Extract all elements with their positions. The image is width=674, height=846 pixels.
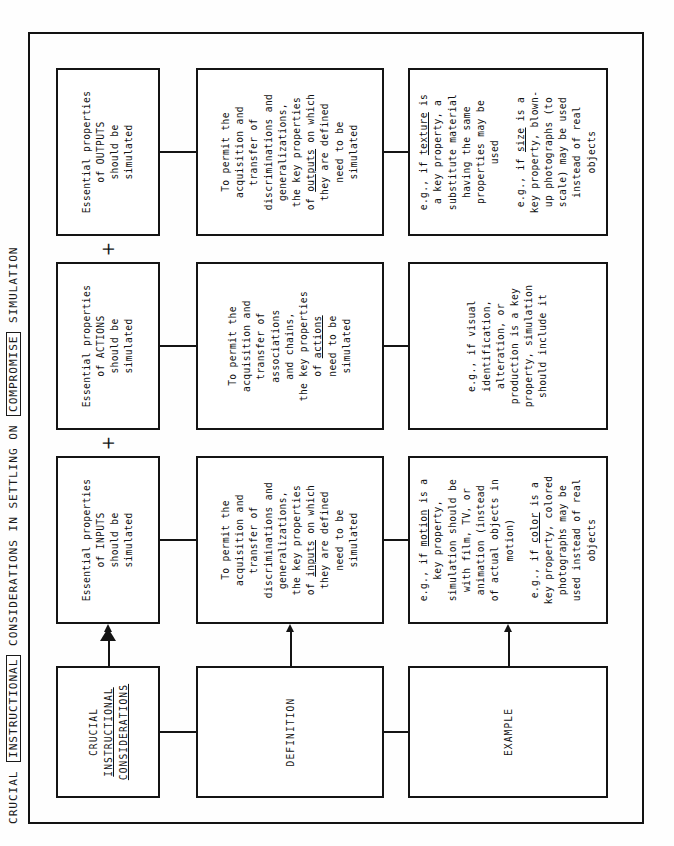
connector-inputs-definition-to-example [384,539,408,541]
definition-inputs-line1: acquisition and [234,494,245,586]
row-label-line3: CONSIDERATIONS [118,684,129,780]
definition-outputs-line7: they are defined [319,103,330,201]
definition-outputs-line1: acquisition and [234,106,245,198]
header-outputs-line4: simulated [123,124,134,179]
definition-outputs: To permit theacquisition andtransfer ofd… [219,94,361,210]
definition-outputs-line2: transfer of [248,118,259,185]
arrowhead-into-inputs-header [100,628,116,641]
example-outputs-0-line1: a key property, a [432,100,443,204]
header-actions-line1: Essential properties [81,285,92,408]
connector-inputs-header-to-definition [160,539,196,541]
example-box-inputs: e.g., if motion is akey property,simulat… [408,456,608,624]
row-label-definition-text: DEFINITION [285,698,296,767]
example-actions-0: e.g., if visualidentification,alteration… [465,285,550,408]
definition-outputs-keyword6: outputs [305,149,316,192]
definition-outputs-line3: discriminations and [263,94,274,210]
example-inputs-1-tail0: is a [529,482,540,513]
example-outputs-0-line3: having the same [461,106,472,198]
definition-actions-line2: transfer of [255,312,266,379]
definition-inputs-line4: generalizations, [277,491,288,589]
example-inputs-0: e.g., if motion is akey property,simulat… [417,479,516,602]
example-actions-0-line4: property, simulation [523,285,534,408]
definition-outputs-line6: of [305,192,316,210]
title-text-0: CRUCIAL [7,763,20,824]
example-outputs-1-line3: scale) may be used [557,97,568,207]
example-outputs-0-line0: e.g., if [418,155,429,210]
row-label-crucial-instructional-considerations: CRUCIAL INSTRUCTIONAL CONSIDERATIONS [56,666,160,798]
plus-operator-inputs-actions: + [100,430,117,456]
rotated-figure-canvas: CRUCIAL INSTRUCTIONAL CONSIDERATIONS IN … [0,0,674,846]
definition-inputs-keyword6: inputs [305,540,316,577]
definition-actions-line0: To permit the [227,306,238,386]
definition-box-inputs: To permit theacquisition andtransfer ofd… [196,456,384,624]
definition-inputs-line5: the key properties [291,485,302,595]
plus-glyph-1: + [98,436,118,450]
example-inputs-0-line4: animation (instead [475,485,486,595]
example-actions-0-line3: production is a key [509,288,520,404]
example-outputs-1-keyword0: size [515,128,526,153]
example-actions-0-line1: identification, [481,300,492,392]
row-label-example: EXAMPLE [408,666,608,798]
connector-rowlabel-to-inputs-example [504,624,513,666]
title-boxed-word-3: COMPROMISE [6,332,21,416]
definition-outputs-line0: To permit the [220,112,231,192]
definition-actions: To permit theacquisition andtransfer ofa… [226,291,354,401]
connector-outputs-header-to-definition [160,151,196,153]
example-inputs-0-line0: e.g., if [418,546,429,601]
header-box-outputs: Essential properties of OUTPUTS should b… [56,68,160,236]
definition-inputs-line9: simulated [348,512,359,567]
header-actions-line4: simulated [123,318,134,373]
plus-glyph-2: + [98,242,118,256]
definition-outputs-tail6: on which [305,94,316,149]
example-inputs-0-keyword0: motion [418,509,429,546]
example-inputs-1: e.g., if color is akey property, colored… [528,476,599,605]
plus-operator-actions-outputs: + [100,236,117,262]
example-inputs-1-line3: used instead of real [571,479,582,602]
example-outputs-1: e.g., if size is akey property, blown-up… [514,91,599,214]
definition-actions-line7: need to be [327,315,338,376]
example-inputs-1-keyword0: color [529,512,540,543]
header-outputs-line1: Essential properties [81,91,92,214]
header-outputs-line2: of OUTPUTS [95,121,106,182]
example-inputs-1-line4: objects [586,519,597,562]
example-inputs-0-line6: motion) [504,519,515,562]
example-outputs-1-line0: e.g., if [515,152,526,207]
example-box-actions: e.g., if visualidentification,alteration… [408,262,608,430]
definition-outputs-line5: the key properties [291,97,302,207]
definition-box-actions: To permit theacquisition andtransfer ofa… [196,262,384,430]
scanned-figure-page: CRUCIAL INSTRUCTIONAL CONSIDERATIONS IN … [0,0,674,846]
example-outputs-1-line4: instead of real [571,106,582,198]
connector-rowlabel-definition-to-example [384,731,408,733]
header-inputs-line2: of INPUTS [95,512,106,567]
example-outputs-0-keyword0: texture [418,112,429,155]
row-label-line2: INSTRUCTIONAL [103,687,114,776]
example-inputs-0-line3: with film, TV, or [461,488,472,592]
title-text-2: CONSIDERATIONS IN SETTLING ON [7,417,20,654]
definition-inputs-line2: transfer of [248,506,259,573]
example-box-outputs: e.g., if texture isa key property, asubs… [408,68,608,236]
example-actions-0-line5: should include it [537,294,548,398]
header-outputs-line3: should be [109,124,120,179]
row-label-example-text: EXAMPLE [503,708,514,756]
definition-inputs-line3: discriminations and [263,482,274,598]
figure-title: CRUCIAL INSTRUCTIONAL CONSIDERATIONS IN … [6,247,21,824]
definition-actions-line1: acquisition and [241,300,252,392]
definition-actions-line5: the key properties [298,291,309,401]
example-inputs-1-line0: e.g., if [529,543,540,598]
connector-rowlabel-header-to-definition [160,731,196,733]
header-inputs-line4: simulated [123,512,134,567]
example-outputs-1-line2: up photographs (to [543,97,554,207]
title-boxed-word-1: INSTRUCTIONAL [6,655,21,762]
definition-inputs-line0: To permit the [220,500,231,580]
definition-actions-line8: simulated [341,318,352,373]
example-inputs-0-tail0: is a [418,479,429,510]
example-outputs-0-tail0: is [418,94,429,112]
example-outputs-1-line1: key property, blown- [529,91,540,214]
header-actions-line3: should be [109,318,120,373]
definition-inputs-line6: of [305,577,316,595]
example-outputs-1-tail0: is a [515,97,526,128]
definition-inputs-line7: they are defined [319,491,330,589]
example-inputs-1-line2: photographs may be [557,485,568,595]
row-label-line1: CRUCIAL [88,708,99,756]
example-outputs-0-line4: properties may be [475,100,486,204]
